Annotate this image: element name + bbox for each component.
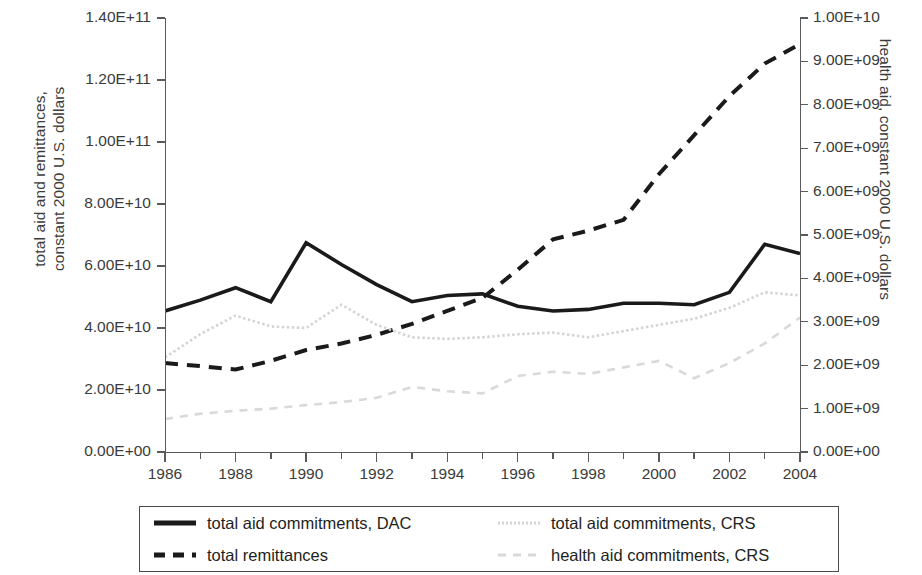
series-line-1 [165, 44, 800, 370]
y-tick-label: 4.00E+10 [0, 318, 151, 336]
x-tick-label: 1986 [125, 465, 205, 483]
x-tick-label: 1994 [407, 465, 487, 483]
x-tick-label: 1988 [196, 465, 276, 483]
legend-item-0: total aid commitments, DAC [140, 507, 470, 539]
legend-label-0: total aid commitments, DAC [207, 514, 411, 533]
y-tick-mark [157, 265, 165, 266]
x-tick-label: 1990 [266, 465, 346, 483]
y2-tick-label: 0.00E+00 [813, 442, 880, 460]
legend-label-2: total remittances [207, 546, 328, 565]
x-tick-mark-major [799, 452, 800, 462]
y2-tick-label: 5.00E+09 [813, 225, 880, 243]
legend-item-3: health aid commitments, CRS [470, 539, 838, 571]
y2-tick-label: 4.00E+09 [813, 268, 880, 286]
x-tick-mark-major [447, 452, 448, 462]
y-tick-mark [157, 327, 165, 328]
x-tick-label: 2004 [760, 465, 840, 483]
y2-tick-label: 1.00E+09 [813, 399, 880, 417]
y2-tick-label: 1.00E+10 [813, 8, 880, 26]
y2-tick-label: 9.00E+09 [813, 51, 880, 69]
x-tick-label: 1992 [337, 465, 417, 483]
x-tick-mark-major [729, 452, 730, 462]
axis-line [165, 452, 800, 453]
y-tick-mark [157, 79, 165, 80]
y-tick-label: 1.00E+11 [0, 132, 151, 150]
series-canvas [165, 18, 800, 452]
dashed-gray-line-icon [498, 548, 540, 562]
axis-line [165, 18, 166, 452]
y2-tick-label: 8.00E+09 [813, 95, 880, 113]
y-tick-mark [157, 389, 165, 390]
y2-tick-label: 3.00E+09 [813, 312, 880, 330]
legend-item-2: total remittances [140, 539, 470, 571]
plot-area [165, 18, 800, 452]
x-tick-label: 2000 [619, 465, 699, 483]
series-line-3 [165, 317, 800, 419]
axis-line [800, 18, 801, 452]
x-tick-mark-major [376, 452, 377, 462]
y-tick-label: 8.00E+10 [0, 194, 151, 212]
legend-label-1: total aid commitments, CRS [551, 514, 755, 533]
y-tick-label: 1.20E+11 [0, 70, 151, 88]
y-tick-mark [157, 203, 165, 204]
y-tick-mark [157, 141, 165, 142]
chart-figure: total aid and remittances, constant 2000… [0, 0, 922, 575]
x-tick-label: 2002 [689, 465, 769, 483]
legend-item-1: total aid commitments, CRS [470, 507, 838, 539]
x-tick-label: 1998 [548, 465, 628, 483]
dotted-gray-line-icon [498, 516, 540, 530]
y-tick-label: 1.40E+11 [0, 8, 151, 26]
y2-tick-label: 7.00E+09 [813, 138, 880, 156]
legend-label-3: health aid commitments, CRS [551, 546, 769, 565]
chart-legend: total aid commitments, DAC total aid com… [139, 506, 839, 572]
y-tick-label: 2.00E+10 [0, 380, 151, 398]
x-tick-mark-major [235, 452, 236, 462]
y2-tick-label: 2.00E+09 [813, 355, 880, 373]
x-tick-mark-major [164, 452, 165, 462]
x-tick-mark-major [517, 452, 518, 462]
x-tick-label: 1996 [478, 465, 558, 483]
series-line-0 [165, 243, 800, 311]
y-tick-mark [157, 17, 165, 18]
x-tick-mark-major [305, 452, 306, 462]
solid-black-line-icon [154, 516, 196, 530]
x-tick-mark-major [658, 452, 659, 462]
y2-tick-label: 6.00E+09 [813, 182, 880, 200]
y-tick-label: 0.00E+00 [0, 442, 151, 460]
x-tick-mark-major [588, 452, 589, 462]
dashed-black-line-icon [154, 548, 196, 562]
y-tick-label: 6.00E+10 [0, 256, 151, 274]
